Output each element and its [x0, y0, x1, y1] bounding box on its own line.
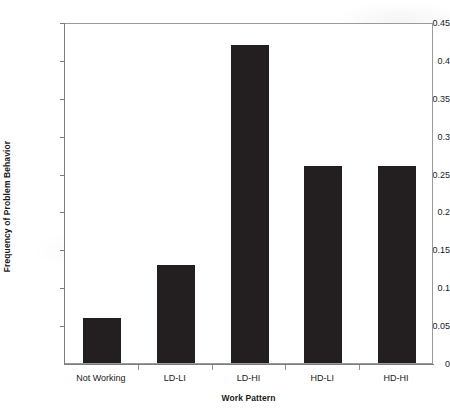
x-axis-line: [64, 364, 434, 365]
x-category-label: HD-HI: [359, 373, 433, 383]
x-category-label: LD-HI: [212, 373, 286, 383]
x-tick-mark: [285, 365, 286, 370]
bar: [304, 166, 342, 363]
bar: [378, 166, 416, 363]
y-axis-line: [64, 23, 65, 365]
y-axis-title: Frequency of Problem Behavior: [0, 0, 14, 413]
x-category-label: Not Working: [64, 373, 138, 383]
x-tick-mark: [359, 365, 360, 370]
x-category-label: HD-LI: [285, 373, 359, 383]
bar: [157, 265, 195, 364]
x-category-label: LD-LI: [138, 373, 212, 383]
plot-area: [64, 23, 433, 364]
x-axis-title: Work Pattern: [64, 393, 433, 403]
bar: [83, 318, 121, 363]
bar: [231, 45, 269, 363]
x-tick-mark: [138, 365, 139, 370]
x-tick-mark: [212, 365, 213, 370]
bar-chart-figure: Frequency of Problem Behavior 00.050.10.…: [0, 0, 450, 413]
